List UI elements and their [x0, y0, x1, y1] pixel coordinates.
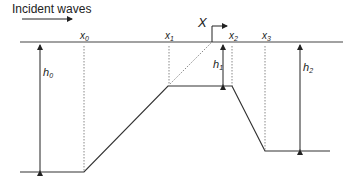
seabed-profile: [20, 86, 330, 172]
incident-waves-label: Incident waves: [12, 2, 91, 16]
x-axis-origin-arrow: [212, 26, 227, 42]
x3-label: x3: [261, 30, 271, 42]
h2-label: h2: [303, 61, 313, 74]
diagonal-dotted-line: [168, 43, 211, 86]
x1-label: x1: [164, 30, 174, 42]
bathymetry-diagram: Incident waves X x0 x1 x2 x3 h0 h1 h2: [0, 0, 343, 183]
X-label: X: [197, 15, 208, 30]
x0-label: x0: [79, 30, 89, 42]
h0-label: h0: [43, 66, 53, 79]
h1-label: h1: [213, 58, 223, 71]
x2-label: x2: [228, 30, 238, 42]
